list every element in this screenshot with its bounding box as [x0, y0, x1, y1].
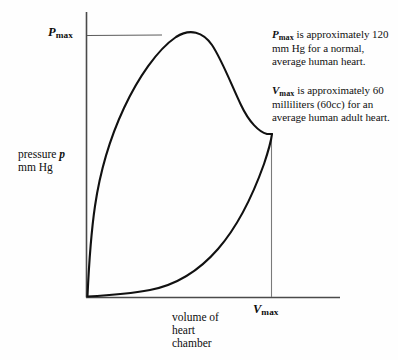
lower-branch-curve: [88, 134, 273, 297]
y-axis-tick-label-pmax: Pmax: [48, 25, 73, 41]
pressure-volume-figure: Pmax Vmax pressure pmm Hg volume ofheart…: [0, 0, 398, 360]
annotation-note-pmax: Pmax is approximately 120 mm Hg for a no…: [272, 28, 398, 68]
note-pmax-subscript: max: [279, 33, 294, 42]
vmax-subscript: max: [261, 307, 278, 317]
y-axis-title: pressure pmm Hg: [18, 148, 65, 174]
x-axis-title-line3: chamber: [172, 337, 219, 350]
pmax-subscript: max: [56, 30, 73, 40]
note-pmax-symbol: P: [272, 28, 279, 40]
y-axis-title-units: mm Hg: [18, 161, 65, 174]
y-axis-title-symbol: p: [56, 148, 65, 160]
x-axis-title-line1: volume of: [172, 311, 219, 324]
pmax-guide-line: [87, 35, 162, 36]
x-axis-title-line2: heart: [172, 324, 219, 337]
y-axis-title-main: pressure: [18, 148, 56, 160]
x-axis-title: volume ofheartchamber: [172, 311, 219, 350]
note-vmax-subscript: max: [279, 89, 294, 98]
x-axis-tick-label-vmax: Vmax: [253, 302, 279, 318]
upper-branch-curve: [88, 32, 273, 296]
annotation-note-vmax: Vmax is approximately 60 milliliters (60…: [272, 84, 398, 124]
pmax-symbol: P: [48, 25, 56, 39]
